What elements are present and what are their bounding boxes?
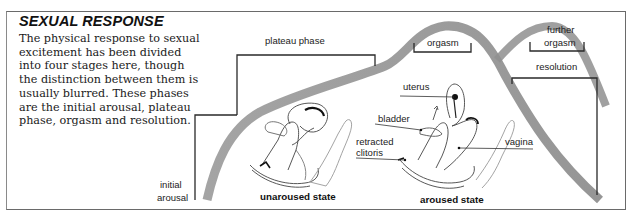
unaroused-illustration — [250, 103, 352, 187]
plateau-label: plateau phase — [265, 35, 325, 46]
orgasm-label: orgasm — [427, 37, 459, 48]
vagina-leader — [459, 148, 533, 149]
unaroused-caption: unaroused state — [260, 191, 336, 202]
sexual-response-diagram: plateau phase orgasm further orgasm reso… — [0, 0, 642, 221]
uterus-leader — [400, 96, 454, 97]
resolution-label: resolution — [536, 61, 577, 72]
uterus-arrow — [433, 106, 438, 120]
clitoris-leader — [356, 158, 405, 160]
further-orgasm-label: orgasm — [544, 37, 576, 48]
bladder-label: bladder — [378, 113, 410, 124]
clitoris-label: clitoris — [356, 147, 383, 158]
plateau-bracket — [237, 55, 375, 115]
aroused-caption: aroused state — [420, 194, 484, 205]
further-label: further — [547, 24, 574, 35]
initial-label: initial — [160, 179, 182, 190]
bladder-leader — [375, 124, 421, 130]
arousal-label: arousal — [157, 192, 188, 203]
vagina-label: vagina — [505, 136, 534, 147]
aroused-illustration — [398, 84, 514, 188]
retracted-label: retracted — [356, 136, 394, 147]
uterus-label: uterus — [403, 81, 430, 92]
